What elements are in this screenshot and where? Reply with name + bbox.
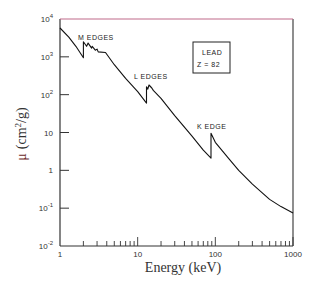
y-axis-mu: μ xyxy=(14,153,29,161)
x-tick-label: 10 xyxy=(133,250,142,259)
y-tick-label: 102 xyxy=(41,89,54,100)
atomic-number-label: Z = 82 xyxy=(197,61,220,68)
y-ticks: 10410310210110-110-2 xyxy=(39,13,69,251)
l-edges-label: L EDGES xyxy=(134,73,168,80)
element-label: LEAD xyxy=(202,49,222,56)
y-tick-label: 10-1 xyxy=(39,202,54,213)
svg-text:μ(cm2/g): μ(cm2/g) xyxy=(13,107,30,161)
attenuation-chart: 10410310210110-110-2 1101001000 M EDGES … xyxy=(0,0,318,292)
y-tick-label: 104 xyxy=(41,13,54,24)
y-tick-label: 1 xyxy=(49,166,54,175)
x-axis-title: Energy (keV) xyxy=(145,260,222,276)
x-tick-label: 1 xyxy=(58,250,63,259)
element-info-box: LEAD Z = 82 xyxy=(193,42,230,73)
x-tick-label: 100 xyxy=(209,250,223,259)
y-tick-label: 10-2 xyxy=(39,240,54,251)
m-edges-label: M EDGES xyxy=(78,34,114,41)
y-tick-label: 10 xyxy=(44,129,53,138)
y-tick-label: 103 xyxy=(41,51,54,62)
k-edge-label: K EDGE xyxy=(197,123,226,130)
y-axis-unit-suffix: /g) xyxy=(14,107,30,123)
y-axis-title: μ(cm2/g) xyxy=(13,107,30,161)
y-axis-unit-prefix: (cm xyxy=(14,127,30,149)
x-tick-label: 1000 xyxy=(284,250,302,259)
plot-frame xyxy=(60,19,293,246)
x-ticks: 1101001000 xyxy=(58,237,303,259)
attenuation-curve xyxy=(60,28,293,213)
